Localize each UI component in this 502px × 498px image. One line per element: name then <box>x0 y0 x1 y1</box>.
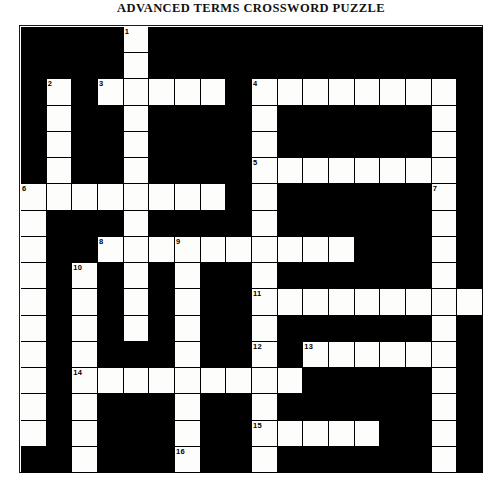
crossword-cell-open[interactable] <box>21 263 47 289</box>
crossword-cell-open[interactable] <box>252 394 278 420</box>
crossword-cell-open[interactable] <box>175 316 201 342</box>
crossword-cell-open[interactable] <box>252 184 278 210</box>
crossword-cell-open[interactable] <box>432 447 458 473</box>
crossword-cell-open[interactable] <box>329 342 355 368</box>
crossword-cell-open[interactable] <box>432 394 458 420</box>
crossword-cell-open[interactable]: 16 <box>175 447 201 473</box>
crossword-cell-open[interactable] <box>278 368 304 394</box>
crossword-cell-open[interactable] <box>303 79 329 105</box>
crossword-cell-open[interactable] <box>47 158 73 184</box>
crossword-cell-open[interactable] <box>175 342 201 368</box>
crossword-grid[interactable]: 12345678910111213141516 <box>21 27 483 473</box>
crossword-cell-open[interactable]: 3 <box>98 79 124 105</box>
crossword-cell-open[interactable] <box>278 158 304 184</box>
crossword-cell-open[interactable] <box>380 158 406 184</box>
crossword-cell-open[interactable] <box>72 316 98 342</box>
crossword-cell-open[interactable] <box>149 79 175 105</box>
crossword-cell-open[interactable] <box>21 394 47 420</box>
crossword-cell-open[interactable] <box>380 342 406 368</box>
crossword-cell-open[interactable] <box>432 211 458 237</box>
crossword-cell-open[interactable] <box>201 368 227 394</box>
crossword-cell-open[interactable] <box>124 158 150 184</box>
crossword-cell-open[interactable] <box>432 421 458 447</box>
crossword-cell-open[interactable]: 7 <box>432 184 458 210</box>
crossword-cell-open[interactable] <box>303 289 329 315</box>
crossword-cell-open[interactable] <box>47 106 73 132</box>
crossword-cell-open[interactable] <box>278 79 304 105</box>
crossword-cell-open[interactable] <box>380 289 406 315</box>
crossword-cell-open[interactable]: 4 <box>252 79 278 105</box>
crossword-cell-open[interactable] <box>175 289 201 315</box>
crossword-cell-open[interactable] <box>201 237 227 263</box>
crossword-cell-open[interactable]: 11 <box>252 289 278 315</box>
crossword-cell-open[interactable] <box>406 289 432 315</box>
crossword-cell-open[interactable]: 9 <box>175 237 201 263</box>
crossword-cell-open[interactable] <box>432 106 458 132</box>
crossword-cell-open[interactable] <box>432 368 458 394</box>
crossword-cell-open[interactable] <box>252 132 278 158</box>
crossword-cell-open[interactable] <box>329 158 355 184</box>
crossword-cell-open[interactable] <box>201 79 227 105</box>
crossword-cell-open[interactable] <box>201 184 227 210</box>
crossword-cell-open[interactable] <box>329 237 355 263</box>
crossword-cell-open[interactable] <box>252 447 278 473</box>
crossword-cell-open[interactable] <box>21 421 47 447</box>
crossword-cell-open[interactable] <box>47 184 73 210</box>
crossword-cell-open[interactable] <box>124 368 150 394</box>
crossword-cell-open[interactable] <box>278 421 304 447</box>
crossword-cell-open[interactable] <box>355 158 381 184</box>
crossword-cell-open[interactable] <box>252 368 278 394</box>
crossword-cell-open[interactable]: 12 <box>252 342 278 368</box>
crossword-cell-open[interactable] <box>457 289 483 315</box>
crossword-cell-open[interactable] <box>252 211 278 237</box>
crossword-cell-open[interactable] <box>21 368 47 394</box>
crossword-cell-open[interactable] <box>355 79 381 105</box>
crossword-cell-open[interactable] <box>278 289 304 315</box>
crossword-cell-open[interactable] <box>226 237 252 263</box>
crossword-cell-open[interactable] <box>124 316 150 342</box>
crossword-cell-open[interactable] <box>72 394 98 420</box>
crossword-cell-open[interactable]: 6 <box>21 184 47 210</box>
crossword-cell-open[interactable] <box>124 132 150 158</box>
crossword-cell-open[interactable] <box>329 289 355 315</box>
crossword-cell-open[interactable] <box>124 289 150 315</box>
crossword-cell-open[interactable] <box>329 79 355 105</box>
crossword-cell-open[interactable] <box>124 106 150 132</box>
crossword-cell-open[interactable] <box>175 368 201 394</box>
crossword-cell-open[interactable] <box>21 211 47 237</box>
crossword-cell-open[interactable] <box>303 158 329 184</box>
crossword-cell-open[interactable] <box>149 184 175 210</box>
crossword-cell-open[interactable] <box>432 316 458 342</box>
crossword-cell-open[interactable] <box>406 79 432 105</box>
crossword-cell-open[interactable]: 10 <box>72 263 98 289</box>
crossword-cell-open[interactable] <box>21 342 47 368</box>
crossword-cell-open[interactable] <box>72 421 98 447</box>
crossword-cell-open[interactable] <box>226 368 252 394</box>
crossword-cell-open[interactable] <box>175 263 201 289</box>
crossword-cell-open[interactable] <box>355 421 381 447</box>
crossword-cell-open[interactable] <box>149 237 175 263</box>
crossword-cell-open[interactable]: 8 <box>98 237 124 263</box>
crossword-cell-open[interactable] <box>252 263 278 289</box>
crossword-cell-open[interactable] <box>21 237 47 263</box>
crossword-cell-open[interactable] <box>149 368 175 394</box>
crossword-cell-open[interactable] <box>124 263 150 289</box>
crossword-cell-open[interactable] <box>72 184 98 210</box>
crossword-cell-open[interactable] <box>21 316 47 342</box>
crossword-cell-open[interactable] <box>252 316 278 342</box>
crossword-cell-open[interactable]: 15 <box>252 421 278 447</box>
crossword-cell-open[interactable] <box>72 447 98 473</box>
crossword-cell-open[interactable] <box>432 79 458 105</box>
crossword-cell-open[interactable] <box>406 342 432 368</box>
crossword-cell-open[interactable]: 13 <box>303 342 329 368</box>
crossword-cell-open[interactable] <box>278 237 304 263</box>
crossword-cell-open[interactable] <box>124 79 150 105</box>
crossword-cell-open[interactable] <box>21 289 47 315</box>
crossword-cell-open[interactable] <box>432 132 458 158</box>
crossword-cell-open[interactable] <box>124 184 150 210</box>
crossword-cell-open[interactable] <box>175 184 201 210</box>
crossword-cell-open[interactable]: 14 <box>72 368 98 394</box>
crossword-cell-open[interactable] <box>406 158 432 184</box>
crossword-cell-open[interactable] <box>72 342 98 368</box>
crossword-cell-open[interactable]: 1 <box>124 27 150 53</box>
